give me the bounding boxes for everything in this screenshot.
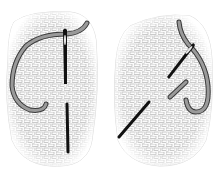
stitch-illustration-vertical: [0, 0, 110, 173]
illustration-panel-step-2: Diagonal stitch with needle and thread l…: [110, 0, 220, 173]
illustration-panel-step-1: Vertical stitch with needle and thread l…: [0, 0, 110, 173]
stitch-illustration-diagonal: [110, 0, 220, 173]
stitch-line: [67, 104, 68, 152]
